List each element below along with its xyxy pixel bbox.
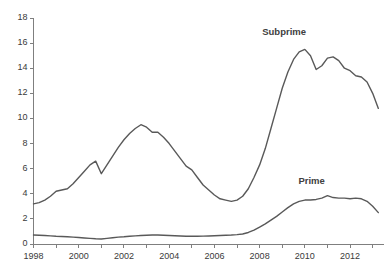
chart-axes	[30, 18, 385, 248]
y-axis-tick-label: 6	[6, 163, 28, 173]
y-axis-tick-label: 18	[6, 12, 28, 22]
y-axis-tick-label: 14	[6, 62, 28, 72]
x-axis-tick-label: 2012	[333, 251, 367, 261]
x-axis-tick-label: 2000	[62, 251, 96, 261]
series-label-subprime: Subprime	[262, 26, 306, 37]
series-line-subprime	[34, 49, 379, 203]
x-axis-tick-label: 2006	[197, 251, 231, 261]
y-axis-tick-label: 8	[6, 138, 28, 148]
x-axis-tick-label: 2004	[152, 251, 186, 261]
chart-series-lines	[34, 49, 379, 239]
x-axis-tick-label: 2002	[107, 251, 141, 261]
y-axis-tick-label: 2	[6, 213, 28, 223]
y-axis-tick-label: 10	[6, 112, 28, 122]
y-axis-tick-label: 4	[6, 188, 28, 198]
x-axis-tick-label: 2008	[243, 251, 277, 261]
line-chart: 024681012141618 199820002002200420062008…	[0, 0, 389, 276]
series-line-prime	[34, 196, 379, 239]
chart-plot-area	[0, 0, 389, 276]
y-axis-tick-label: 16	[6, 37, 28, 47]
x-axis-tick-label: 2010	[288, 251, 322, 261]
x-axis-tick-label: 1998	[17, 251, 51, 261]
series-label-prime: Prime	[298, 175, 324, 186]
y-axis-tick-label: 0	[6, 238, 28, 248]
y-axis-tick-label: 12	[6, 87, 28, 97]
